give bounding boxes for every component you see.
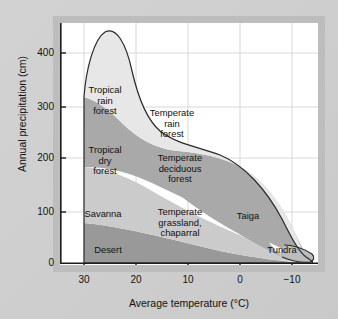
x-tick-20: 20 [116, 274, 156, 285]
biome-label-temperate-grassland-chaparral: Temperate grassland, chaparral [142, 207, 218, 239]
plot-area: Tropical rain forest Temperate rain fore… [60, 23, 318, 265]
x-tick-10: 10 [168, 274, 208, 285]
biome-label-savanna: Savanna [70, 209, 136, 220]
x-tick-30: 30 [64, 274, 104, 285]
biome-label-tropical-rain-forest: Tropical rain forest [76, 85, 134, 117]
biome-label-temperate-rain-forest: Temperate rain forest [138, 108, 206, 140]
y-tick-0: 0 [20, 257, 54, 268]
biome-label-taiga: Taiga [224, 211, 272, 222]
x-tick-0: 0 [220, 274, 260, 285]
biome-label-temperate-deciduous-forest: Temperate deciduous forest [144, 153, 216, 185]
biome-label-tropical-dry-forest: Tropical dry forest [76, 145, 134, 177]
biome-label-tundra: Tundra [256, 245, 308, 256]
y-axis-title: Annual precipitation (cm) [16, 24, 28, 204]
x-tick-minus10: −10 [272, 274, 312, 285]
whittaker-biome-diagram: Tropical rain forest Temperate rain fore… [0, 0, 338, 319]
y-tick-100: 100 [20, 206, 54, 217]
biome-label-desert: Desert [80, 245, 136, 256]
x-axis-title: Average temperature (°C) [60, 297, 318, 309]
